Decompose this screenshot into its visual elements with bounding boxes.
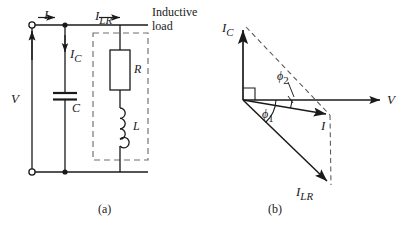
label-resistor: R bbox=[134, 62, 141, 77]
construction-line-projection bbox=[330, 115, 331, 185]
label-current-i: I bbox=[44, 7, 48, 23]
label-current-ic-sub: C bbox=[74, 52, 81, 64]
inductor-symbol bbox=[120, 108, 129, 148]
label-phasor-ic: IC bbox=[222, 18, 234, 38]
label-angle-phi2: ϕ2 bbox=[277, 66, 289, 86]
label-angle-phi1: ϕ1 bbox=[262, 104, 274, 124]
figure-root bbox=[0, 0, 416, 226]
label-inductor: L bbox=[133, 119, 140, 134]
terminal-top bbox=[29, 22, 35, 28]
label-current-ic: IC bbox=[70, 44, 82, 64]
angle-leader-phi2 bbox=[288, 82, 294, 97]
label-inductive-load-line1: Inductive bbox=[152, 6, 197, 19]
label-phasor-ilr: ILR bbox=[296, 182, 313, 202]
label-angle-phi2-sub: 2 bbox=[283, 74, 288, 86]
circuit-diagram bbox=[29, 18, 148, 176]
label-inductive-load-line2: load bbox=[152, 20, 173, 33]
label-current-ilr: ILR bbox=[95, 6, 112, 26]
caption-a: (a) bbox=[98, 202, 111, 217]
label-phasor-v: V bbox=[387, 92, 395, 108]
resistor-symbol bbox=[110, 50, 130, 90]
label-source-voltage: V bbox=[11, 91, 19, 107]
terminal-bottom bbox=[29, 169, 35, 175]
label-phasor-i: I bbox=[321, 118, 325, 134]
right-angle-marker bbox=[243, 88, 255, 100]
junction-dot-top bbox=[62, 22, 67, 27]
label-current-ilr-sub: LR bbox=[99, 14, 112, 26]
label-capacitor: C bbox=[72, 101, 80, 116]
caption-b: (b) bbox=[268, 202, 282, 217]
label-phasor-ilr-sub: LR bbox=[300, 190, 313, 202]
label-phasor-ic-sub: C bbox=[226, 26, 233, 38]
junction-dot-bottom bbox=[62, 169, 67, 174]
label-angle-phi1-sub: 1 bbox=[268, 112, 273, 124]
